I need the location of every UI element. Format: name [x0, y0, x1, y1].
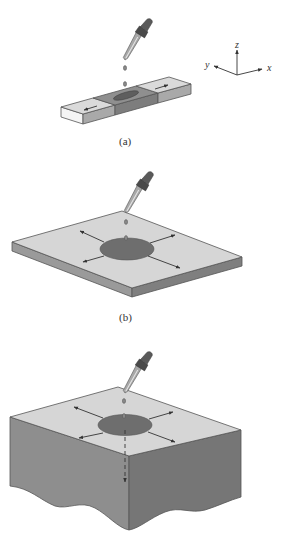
dropper-icon: [123, 352, 152, 393]
drop-icon: [122, 414, 125, 419]
panel-b: (b): [12, 172, 242, 324]
drop-icon: [124, 236, 127, 241]
panel-a: z y x (a): [61, 19, 272, 148]
dropper-icon: [124, 172, 153, 213]
axis-label-z: z: [234, 39, 239, 50]
drop-icon: [123, 82, 126, 87]
drop-icon: [124, 220, 127, 225]
panel-c: [10, 352, 241, 530]
dropper-icon: [123, 19, 152, 60]
panel-label-b: (b): [119, 311, 132, 324]
drop-icon: [123, 66, 126, 71]
panel-label-a: (a): [119, 135, 132, 148]
diffusion-dimensions-figure: z y x (a) (b): [0, 0, 283, 535]
axis-label-y: y: [204, 59, 210, 70]
liquid-spot-b: [100, 238, 154, 260]
drop-icon: [122, 399, 125, 404]
axis-label-x: x: [266, 62, 272, 73]
axis-triad: z y x: [204, 39, 272, 75]
